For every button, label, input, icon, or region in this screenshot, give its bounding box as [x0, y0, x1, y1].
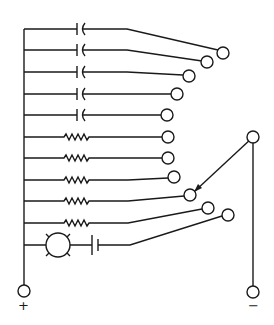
positive-terminal[interactable]	[18, 285, 30, 297]
branch-capacitor-1	[24, 23, 218, 50]
branch-lamp-cell-11	[24, 216, 222, 257]
resistor-icon	[24, 134, 162, 140]
positive-label: +	[18, 299, 29, 312]
branch-resistor-8	[24, 177, 168, 183]
selector-contact-10[interactable]	[202, 202, 214, 214]
selector-contact-5[interactable]	[161, 109, 173, 121]
branch-resistor-7	[24, 155, 162, 161]
branch-capacitor-3	[24, 66, 183, 78]
selector-contact-4[interactable]	[171, 88, 183, 100]
selector-contact-6[interactable]	[162, 131, 174, 143]
branch-capacitor-2	[24, 44, 202, 61]
branch-resistor-9	[24, 196, 184, 204]
branch-resistor-6	[24, 134, 162, 140]
branch-capacitor-4	[24, 88, 171, 100]
selector-contact-1[interactable]	[217, 47, 229, 59]
selector-arm[interactable]	[195, 138, 252, 191]
negative-label: −	[248, 299, 259, 312]
lamp-icon	[46, 233, 70, 257]
selector-contact-7[interactable]	[162, 152, 174, 164]
selector-contact-8[interactable]	[168, 171, 180, 183]
negative-terminal[interactable]	[247, 286, 259, 298]
selector-contact-3[interactable]	[183, 70, 195, 82]
schematic-canvas	[0, 0, 274, 325]
branch-resistor-10	[24, 209, 202, 226]
branch-capacitor-5	[24, 109, 161, 121]
selector-contact-2[interactable]	[201, 56, 213, 68]
selector-contact-9[interactable]	[184, 189, 196, 201]
selector-pivot[interactable]	[247, 131, 259, 143]
selector-contact-11[interactable]	[222, 209, 234, 221]
